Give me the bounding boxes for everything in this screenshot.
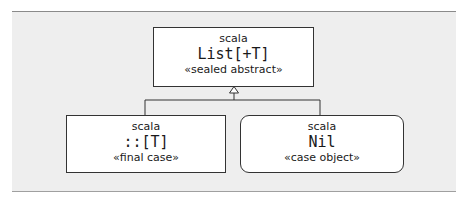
stereotype-label: «sealed abstract» — [154, 63, 313, 77]
stereotype-label: «final case» — [67, 151, 225, 165]
object-name: Nil — [241, 133, 403, 151]
class-name: List[+T] — [154, 45, 313, 63]
class-name: ::[T] — [67, 133, 225, 151]
package-label: scala — [67, 120, 225, 133]
class-cons: scala ::[T] «final case» — [66, 115, 226, 173]
object-nil: scala Nil «case object» — [240, 115, 404, 173]
stereotype-label: «case object» — [241, 151, 403, 165]
inheritance-arrow-icon — [230, 87, 239, 94]
package-label: scala — [241, 120, 403, 133]
class-list: scala List[+T] «sealed abstract» — [153, 27, 314, 87]
package-label: scala — [154, 32, 313, 45]
